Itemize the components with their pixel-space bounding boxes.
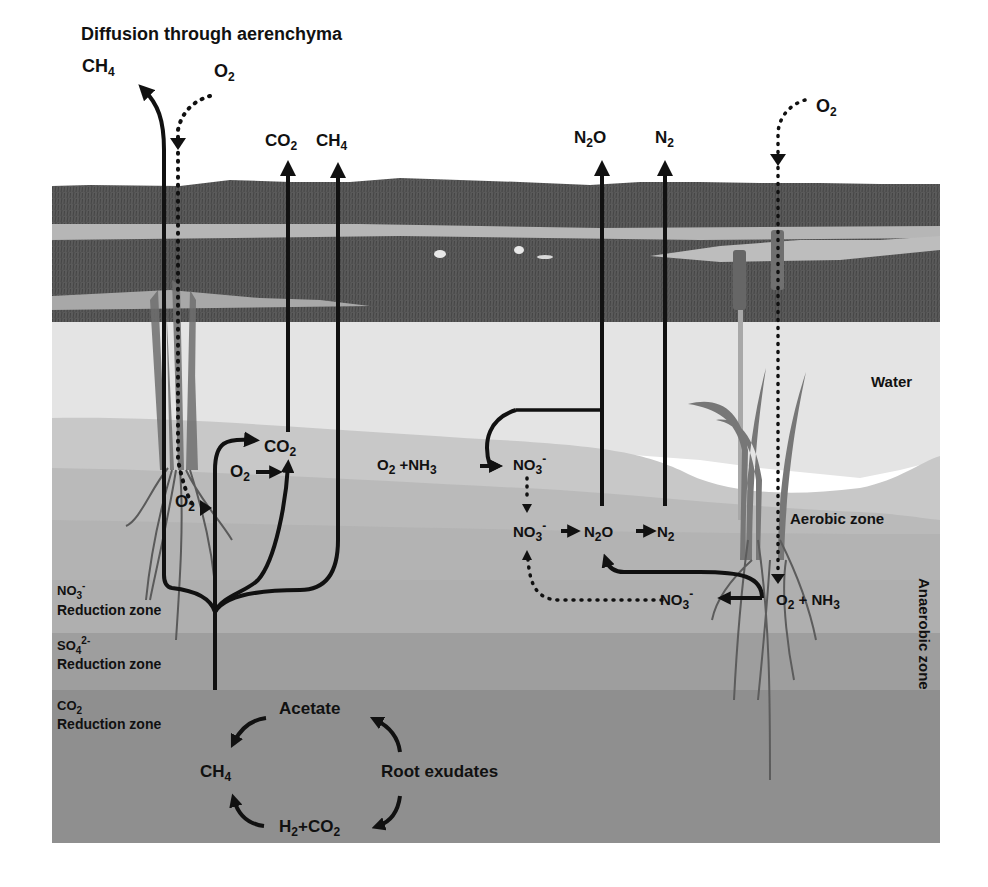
- egret-3: [537, 255, 553, 259]
- ch4-top-label: CH4: [316, 131, 348, 153]
- co2-reduction-label: Reduction zone: [57, 716, 161, 732]
- co2-top-label: CO2: [265, 131, 298, 153]
- n2o-top-label: N2O: [574, 128, 606, 150]
- so4-reduction-label: Reduction zone: [57, 656, 161, 672]
- wetland-biogeochemistry-diagram: Diffusion through aerenchyma CH4 O2 CO2 …: [0, 0, 988, 887]
- no3-reduction-species: NO3-: [57, 580, 85, 601]
- egret-1: [434, 250, 446, 258]
- n2-top-label: N2: [655, 128, 674, 150]
- root-exudates-label: Root exudates: [381, 762, 498, 781]
- aerobic-zone-label: Aerobic zone: [790, 510, 884, 527]
- h2-co2-label: H2+CO2: [279, 817, 340, 839]
- egret-2: [514, 246, 524, 254]
- so4-reduction-band: [52, 633, 940, 690]
- o2-down-arrowhead-right: [770, 154, 786, 166]
- marker-post-head: [733, 250, 746, 310]
- diagram-title: Diffusion through aerenchyma: [81, 24, 343, 44]
- water-layer: [52, 322, 940, 422]
- o2-left-label: O2: [214, 61, 235, 84]
- no3-reduction-label: Reduction zone: [57, 602, 161, 618]
- o2-right-label: O2: [816, 96, 837, 119]
- anaerobic-zone-label: Anaerobic zone: [916, 578, 933, 690]
- water-zone-label: Water: [871, 373, 912, 390]
- acetate-label: Acetate: [279, 699, 340, 718]
- ch4-aerenchyma-label: CH4: [82, 56, 115, 79]
- o2-down-arrowhead-left: [170, 138, 186, 150]
